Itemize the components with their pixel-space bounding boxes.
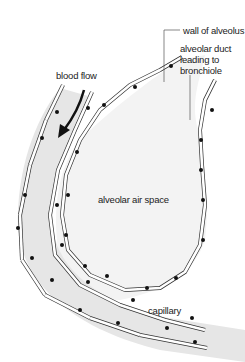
blood-flow-label: blood flow (56, 70, 97, 81)
alveolar-air-space-label: alveolar air space (98, 194, 169, 205)
wall-of-alveolus-label: wall of alveolus (183, 25, 244, 36)
alveolus-diagram: wall of alveolus alveolar duct leading t… (0, 0, 245, 362)
alveolar-duct-label: alveolar duct leading to bronchiole (180, 43, 231, 76)
capillary-label: capillary (148, 305, 181, 316)
